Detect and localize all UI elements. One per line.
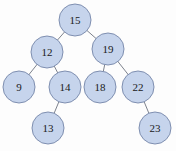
node-label: 22 — [133, 81, 144, 93]
tree-node-18: 18 — [84, 71, 116, 103]
tree-svg: 15121991418221323 — [0, 0, 176, 151]
tree-node-23: 23 — [139, 112, 171, 144]
node-label: 18 — [95, 81, 107, 93]
node-label: 19 — [103, 43, 115, 55]
node-label: 12 — [42, 46, 53, 58]
node-label: 23 — [150, 122, 162, 134]
tree-diagram: 15121991418221323 — [0, 0, 176, 151]
tree-node-19: 19 — [92, 33, 124, 65]
tree-node-15: 15 — [59, 4, 91, 36]
node-label: 14 — [60, 81, 72, 93]
tree-node-12: 12 — [31, 36, 63, 68]
tree-node-9: 9 — [3, 71, 35, 103]
tree-node-13: 13 — [32, 112, 64, 144]
node-label: 13 — [43, 122, 55, 134]
nodes-layer: 15121991418221323 — [3, 4, 171, 144]
node-label: 9 — [16, 81, 22, 93]
tree-node-22: 22 — [122, 71, 154, 103]
tree-node-14: 14 — [49, 71, 81, 103]
node-label: 15 — [70, 14, 82, 26]
